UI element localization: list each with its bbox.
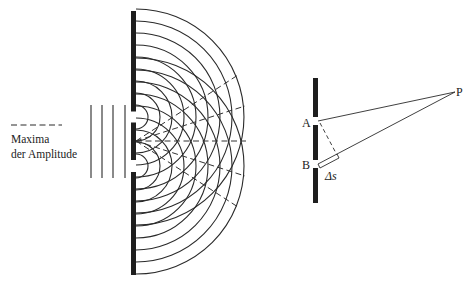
point-p-label: P — [456, 85, 463, 99]
delta-s-label: Δs — [324, 169, 337, 183]
maximum-line — [136, 106, 245, 141]
point-a-label: A — [302, 116, 311, 130]
maximum-line — [136, 141, 245, 176]
path-difference-geometry: A B P Δs — [302, 78, 463, 203]
point-b-label: B — [302, 158, 310, 172]
slit-barrier-small — [313, 78, 318, 203]
circular-wavefronts — [136, 9, 244, 274]
path-difference-bracket — [318, 154, 339, 168]
slit-barrier — [131, 11, 136, 275]
barrier-segment — [313, 168, 318, 203]
legend: Maxima der Amplitude — [11, 125, 77, 161]
barrier-segment — [313, 125, 318, 160]
incident-wavefronts — [91, 105, 125, 178]
wavefront-arc — [136, 154, 148, 178]
ray-a-to-p — [318, 92, 455, 121]
wavefront-arc — [136, 105, 148, 129]
legend-line2: der Amplitude — [11, 148, 77, 161]
perpendicular-dashed — [320, 123, 337, 155]
barrier-segment — [131, 11, 136, 112]
barrier-segment — [131, 172, 136, 275]
ray-b-to-p — [318, 92, 455, 164]
double-slit-diagram: Maxima der Amplitude A B P Δs — [0, 0, 468, 286]
interference-pattern — [91, 9, 246, 275]
legend-line1: Maxima — [11, 133, 49, 145]
barrier-segment — [131, 123, 136, 161]
barrier-segment — [313, 78, 318, 117]
